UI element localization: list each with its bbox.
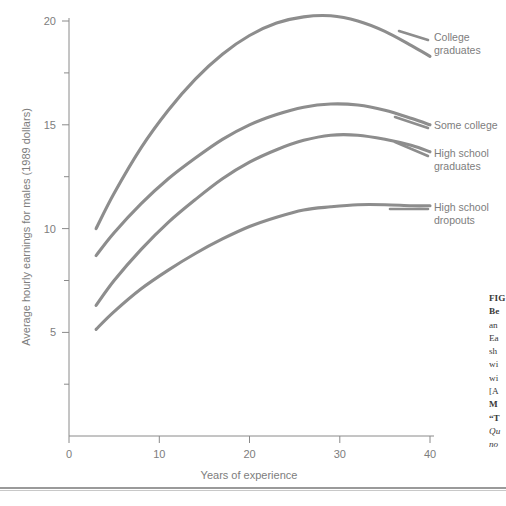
figure-caption: FIG Be an Ea sh wi wi [A M “T Qu no: [489, 292, 506, 477]
series-curves: [96, 16, 430, 330]
leader-line-college: [399, 31, 428, 40]
caption-line-6: wi: [489, 358, 506, 371]
series-label-college-graduates: College graduates: [434, 31, 481, 57]
y-axis-title: Average hourly earnings for males (1989 …: [20, 108, 32, 346]
caption-line-2: Be: [489, 305, 506, 318]
x-tick-label-0: 0: [66, 448, 72, 460]
series-label-hs-drop-line-1: High school: [434, 201, 489, 214]
y-tick-label-10: 10: [44, 223, 56, 235]
x-axis-ticks: [69, 436, 430, 443]
caption-line-12: no: [489, 438, 506, 451]
caption-line-5: sh: [489, 345, 506, 358]
caption-line-9: M: [489, 398, 506, 411]
series-label-hs-grad-line-2: graduates: [434, 160, 489, 173]
caption-line-8: [A: [489, 385, 506, 398]
series-label-college-line-1: College: [434, 31, 481, 44]
series-curve-high-school-dropouts: [96, 205, 430, 330]
x-tick-label-20: 20: [243, 448, 255, 460]
series-curve-college-graduates: [96, 16, 430, 229]
caption-line-1: FIG: [489, 292, 506, 305]
page-footer-rule: [0, 487, 506, 489]
series-label-some-college-line-1: Some college: [434, 119, 498, 132]
page-footer-rule-2: [0, 490, 506, 491]
x-tick-label-30: 30: [334, 448, 346, 460]
x-tick-label-10: 10: [153, 448, 165, 460]
leader-lines: [390, 31, 428, 209]
caption-line-3: an: [489, 319, 506, 332]
series-curve-some-college: [96, 104, 430, 256]
y-tick-label-20: 20: [44, 15, 56, 27]
y-tick-label-15: 15: [44, 119, 56, 131]
caption-line-4: Ea: [489, 332, 506, 345]
series-label-hs-grad-line-1: High school: [434, 147, 489, 160]
series-label-hs-graduates: High school graduates: [434, 147, 489, 173]
figure-panel: 20 15 10 5 0 10 20 30 40 Years of experi…: [0, 0, 506, 506]
x-axis-title: Years of experience: [201, 469, 298, 481]
caption-line-11: Qu: [489, 425, 506, 438]
series-label-college-line-2: graduates: [434, 44, 481, 57]
y-tick-label-5: 5: [50, 326, 56, 338]
chart-plot: 20 15 10 5 0 10 20 30 40 Years of experi…: [0, 0, 506, 506]
caption-line-7: wi: [489, 372, 506, 385]
series-label-hs-dropouts: High school dropouts: [434, 201, 489, 227]
series-label-some-college: Some college: [434, 119, 498, 132]
caption-line-10: “T: [489, 412, 506, 425]
x-tick-label-40: 40: [424, 448, 436, 460]
series-label-hs-drop-line-2: dropouts: [434, 214, 489, 227]
